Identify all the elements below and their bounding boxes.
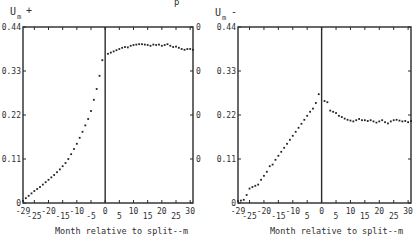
data-point: [295, 131, 297, 133]
left-y-ticks: 00.110.220.330.44: [2, 23, 193, 208]
data-point: [161, 45, 163, 47]
data-point: [292, 135, 294, 137]
data-point: [396, 119, 398, 121]
data-point: [341, 116, 343, 118]
data-point: [252, 186, 254, 188]
data-point: [33, 190, 35, 192]
data-point: [31, 193, 33, 195]
data-point: [260, 179, 262, 181]
x-tick-label: 25: [389, 212, 399, 221]
right-axis-label: 0: [196, 111, 201, 120]
data-point: [312, 108, 314, 110]
data-point: [144, 44, 146, 46]
data-point: [306, 115, 308, 117]
data-point: [280, 151, 282, 153]
data-point: [186, 48, 188, 50]
data-point: [335, 112, 337, 114]
data-point: [192, 49, 194, 51]
data-point: [45, 181, 47, 183]
figure-canvas: p U m + 00.110.220.330.44 -29-25-20-15-1…: [0, 0, 417, 247]
data-point: [101, 59, 103, 61]
data-point: [181, 48, 183, 50]
data-point: [237, 200, 239, 202]
data-point: [350, 120, 352, 122]
x-tick-label: 15: [143, 212, 153, 221]
data-point: [22, 200, 24, 202]
data-point: [155, 44, 157, 46]
left-right-axis-labels: 0000: [196, 23, 201, 164]
data-point: [324, 100, 326, 102]
data-point: [65, 162, 67, 164]
data-point: [93, 99, 95, 101]
data-point: [28, 195, 30, 197]
data-point: [79, 137, 81, 139]
x-tick-label: 10: [346, 207, 356, 216]
data-point: [338, 115, 340, 117]
data-point: [113, 51, 115, 53]
data-point: [298, 127, 300, 129]
data-point: [118, 48, 120, 50]
data-point: [127, 47, 129, 49]
data-point: [266, 171, 268, 173]
x-tick-label: 5: [117, 212, 122, 221]
data-point: [410, 120, 412, 122]
right-axis-label: 0: [196, 155, 201, 164]
data-point: [358, 118, 360, 120]
data-point: [82, 131, 84, 133]
data-point: [283, 147, 285, 149]
x-tick-label: -5: [86, 212, 96, 221]
data-point: [135, 44, 137, 46]
data-point: [59, 169, 61, 171]
data-point: [355, 119, 357, 121]
data-point: [189, 48, 191, 50]
data-point: [240, 200, 242, 202]
data-point: [393, 119, 395, 121]
data-point: [164, 44, 166, 46]
data-point: [399, 120, 401, 122]
data-point: [84, 125, 86, 127]
x-tick-label: -25: [27, 212, 42, 221]
data-point: [246, 194, 248, 196]
data-point: [370, 119, 372, 121]
data-point: [301, 123, 303, 125]
data-point: [70, 153, 72, 155]
data-point: [147, 44, 149, 46]
data-point: [124, 46, 126, 48]
data-point: [329, 110, 331, 112]
data-point: [175, 46, 177, 48]
data-point: [116, 49, 118, 51]
data-point: [272, 164, 274, 166]
data-point: [243, 199, 245, 201]
left-chart: U m + 00.110.220.330.44 -29-25-20-15-10-…: [2, 5, 201, 236]
data-point: [286, 143, 288, 145]
x-tick-label: -15: [55, 212, 70, 221]
data-point: [56, 171, 58, 173]
right-axis-label: 0: [196, 67, 201, 76]
x-tick-label: -20: [41, 207, 56, 216]
y-tick-label: 0.44: [2, 23, 21, 32]
data-point: [152, 44, 154, 46]
data-point: [364, 119, 366, 121]
data-point: [36, 188, 38, 190]
data-point: [167, 43, 169, 45]
data-point: [150, 45, 152, 47]
data-point: [184, 49, 186, 51]
x-tick-label: -20: [257, 207, 272, 216]
data-point: [39, 186, 41, 188]
data-point: [407, 121, 409, 123]
x-tick-label: 5: [305, 212, 310, 221]
data-point: [96, 88, 98, 90]
x-tick-label: 25: [171, 212, 181, 221]
data-point: [50, 177, 52, 179]
data-point: [352, 121, 354, 123]
data-point: [133, 44, 135, 46]
header-fragment: p: [174, 0, 179, 7]
data-point: [263, 175, 265, 177]
data-point: [378, 121, 380, 123]
data-point: [373, 121, 375, 123]
x-tick-label: 10: [129, 207, 139, 216]
data-point: [158, 44, 160, 46]
y-tick-label: 0.11: [2, 155, 21, 164]
data-point: [347, 119, 349, 121]
data-point: [90, 110, 92, 112]
